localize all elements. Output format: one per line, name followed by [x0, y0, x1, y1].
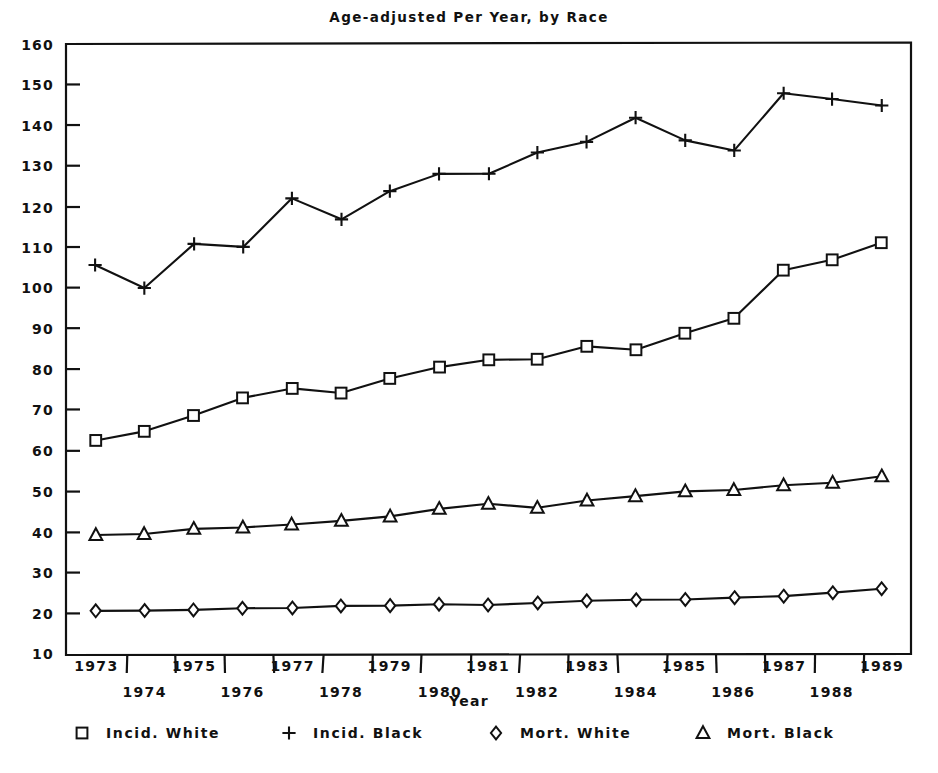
x-tick-label-1974: 1974: [123, 684, 167, 700]
marker-square-incid-white-3: [237, 392, 248, 403]
x-tick-1974: [127, 654, 128, 673]
marker-square-incid-white-4: [287, 383, 298, 394]
x-tick-label-1988: 1988: [810, 684, 854, 700]
marker-square-incid-white-14: [778, 265, 789, 276]
legend-label-1: Incid. Black: [313, 725, 423, 741]
marker-square-incid-white-0: [90, 435, 101, 446]
marker-square-incid-white-13: [728, 313, 739, 324]
x-tick-1982: [519, 654, 520, 673]
y-tick-label-80: 80: [32, 362, 54, 378]
marker-square-incid-white-1: [139, 426, 150, 437]
marker-square-incid-white-16: [876, 237, 887, 248]
line-chart: Age-adjusted Per Year, by Race 102030405…: [0, 0, 938, 773]
marker-square-incid-white-10: [581, 341, 592, 352]
y-tick-label-110: 110: [21, 240, 54, 256]
y-tick-label-120: 120: [21, 200, 54, 216]
y-tick-label-20: 20: [32, 606, 54, 622]
y-tick-label-140: 140: [21, 118, 54, 134]
x-tick-1980: [421, 654, 422, 673]
legend-label-0: Incid. White: [106, 725, 220, 741]
marker-square-incid-white-9: [532, 354, 543, 365]
x-tick-label-1985: 1985: [662, 658, 706, 674]
y-tick-label-150: 150: [21, 77, 54, 93]
x-tick-label-1977: 1977: [271, 658, 315, 674]
x-tick-label-1978: 1978: [319, 684, 363, 700]
marker-square-legend-incid-white-0: [77, 728, 88, 739]
x-tick-label-1981: 1981: [466, 658, 510, 674]
x-tick-1978: [322, 654, 323, 673]
marker-square-incid-white-12: [679, 328, 690, 339]
marker-square-incid-white-2: [188, 410, 199, 421]
y-tick-label-90: 90: [32, 321, 54, 337]
marker-square-incid-white-6: [384, 373, 395, 384]
y-tick-label-100: 100: [21, 280, 54, 296]
marker-square-incid-white-7: [434, 362, 445, 373]
x-tick-label-1987: 1987: [762, 658, 806, 674]
chart-container: Age-adjusted Per Year, by Race 102030405…: [0, 0, 938, 773]
y-tick-label-130: 130: [21, 158, 54, 174]
x-axis-title: Year: [448, 693, 489, 709]
legend-label-2: Mort. White: [520, 725, 631, 741]
chart-title: Age-adjusted Per Year, by Race: [329, 9, 608, 25]
y-tick-label-30: 30: [32, 565, 54, 581]
y-tick-label-10: 10: [32, 646, 54, 662]
marker-square-incid-white-15: [827, 254, 838, 265]
marker-square-incid-white-11: [631, 344, 642, 355]
x-tick-1984: [617, 654, 618, 673]
y-tick-label-50: 50: [32, 484, 54, 500]
x-tick-label-1975: 1975: [172, 658, 216, 674]
y-tick-label-40: 40: [32, 525, 54, 541]
x-tick-label-1982: 1982: [515, 684, 559, 700]
x-tick-label-1989: 1989: [860, 658, 904, 674]
legend-label-3: Mort. Black: [727, 725, 834, 741]
x-tick-label-1984: 1984: [614, 684, 658, 700]
y-tick-label-160: 160: [21, 37, 54, 53]
marker-square-incid-white-8: [483, 354, 494, 365]
y-tick-label-70: 70: [32, 402, 54, 418]
y-tick-label-60: 60: [32, 443, 54, 459]
marker-square-incid-white-5: [336, 388, 347, 399]
x-tick-label-1979: 1979: [368, 658, 412, 674]
x-tick-label-1976: 1976: [220, 684, 264, 700]
x-tick-label-1986: 1986: [711, 684, 755, 700]
x-tick-label-1983: 1983: [565, 658, 609, 674]
x-tick-label-1973: 1973: [74, 658, 118, 674]
x-tick-1986: [716, 654, 717, 673]
